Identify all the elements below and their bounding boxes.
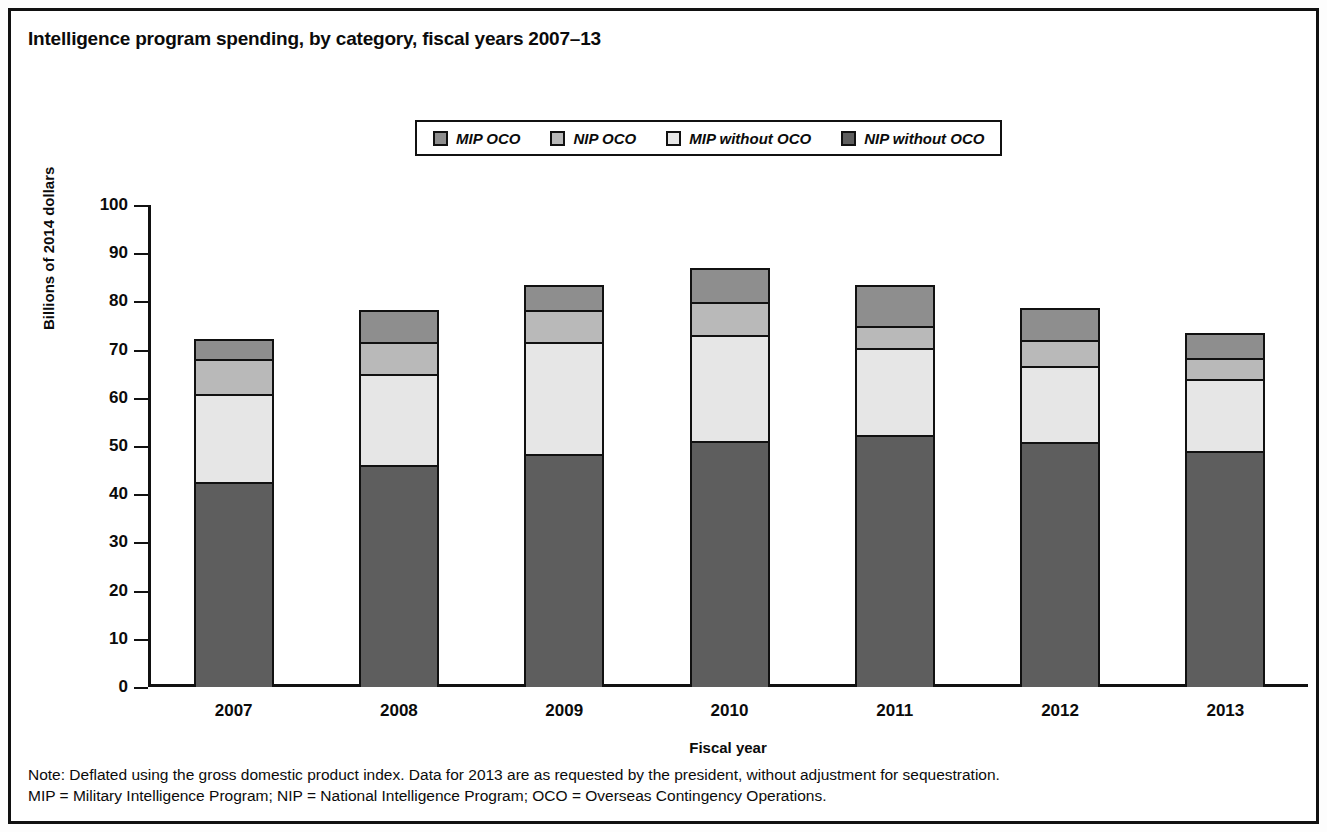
bar-segment [690,302,770,335]
bar-segment [1185,358,1265,378]
x-tick-label-2010: 2010 [670,701,790,721]
bar-segment [690,335,770,441]
bar-segment [855,326,935,348]
note-line-2: MIP = Military Intelligence Program; NIP… [28,785,1288,806]
legend-item-mip-oco[interactable]: MIP OCO [433,130,520,147]
x-tick-label-2011: 2011 [835,701,955,721]
bar-segment [855,285,935,326]
y-tick-mark [134,398,148,400]
bar-segment [1020,366,1100,442]
bar-2012[interactable] [1020,308,1100,687]
chart-legend: MIP OCO NIP OCO MIP without OCO NIP with… [415,120,1002,156]
y-tick-label: 40 [82,484,128,504]
bar-segment [690,268,770,302]
bar-segment [359,342,439,374]
legend-item-nip-without-oco[interactable]: NIP without OCO [841,130,984,147]
bar-segment [359,465,439,687]
legend-swatch-nip-without-oco [841,131,856,146]
x-tick-label-2013: 2013 [1165,701,1285,721]
bar-segment [359,310,439,342]
bar-segment [194,482,274,687]
note-line-1: Note: Deflated using the gross domestic … [28,764,1288,785]
bar-segment [194,339,274,359]
bar-segment [524,310,604,343]
bar-segment [524,285,604,310]
bar-segment [1020,442,1100,687]
legend-label-mip-without-oco: MIP without OCO [689,130,811,147]
y-tick-mark [134,494,148,496]
y-tick-mark [134,205,148,207]
y-tick-label: 80 [82,291,128,311]
figure-container: Intelligence program spending, by catego… [0,0,1327,832]
bar-segment [1185,451,1265,687]
legend-label-nip-oco: NIP OCO [573,130,636,147]
legend-item-mip-without-oco[interactable]: MIP without OCO [666,130,811,147]
y-tick-label: 50 [82,436,128,456]
bar-2009[interactable] [524,285,604,687]
bar-segment [359,374,439,466]
y-tick-label: 60 [82,388,128,408]
bar-segment [1020,340,1100,367]
bar-segment [1020,308,1100,340]
bar-segment [855,435,935,687]
legend-swatch-mip-oco [433,131,448,146]
y-tick-mark [134,687,148,689]
bar-2008[interactable] [359,310,439,687]
y-tick-mark [134,253,148,255]
figure-notes: Note: Deflated using the gross domestic … [28,764,1288,806]
bar-segment [690,441,770,687]
bar-2011[interactable] [855,285,935,687]
x-axis-title: Fiscal year [148,739,1308,756]
y-axis-title: Billions of 2014 dollars [40,167,57,330]
bar-segment [194,359,274,394]
bar-segment [1185,333,1265,358]
legend-item-nip-oco[interactable]: NIP OCO [550,130,636,147]
y-tick-label: 70 [82,340,128,360]
y-tick-label: 20 [82,581,128,601]
y-tick-label: 90 [82,243,128,263]
y-tick-label: 100 [82,195,128,215]
x-tick-label-2009: 2009 [504,701,624,721]
bar-2007[interactable] [194,339,274,687]
plot-area: 0102030405060708090100 20072008200920102… [148,205,1308,687]
bar-segment [524,454,604,687]
y-tick-mark [134,350,148,352]
page-title: Intelligence program spending, by catego… [28,28,601,50]
y-tick-mark [134,542,148,544]
x-tick-label-2007: 2007 [174,701,294,721]
bar-segment [855,348,935,435]
legend-swatch-nip-oco [550,131,565,146]
bar-segment [194,394,274,482]
y-tick-mark [134,446,148,448]
y-tick-label: 30 [82,532,128,552]
y-tick-mark [134,301,148,303]
y-tick-label: 0 [82,677,128,697]
x-tick-label-2012: 2012 [1000,701,1120,721]
x-tick-label-2008: 2008 [339,701,459,721]
legend-label-nip-without-oco: NIP without OCO [864,130,984,147]
bar-segment [1185,379,1265,451]
y-tick-label: 10 [82,629,128,649]
y-tick-mark [134,639,148,641]
bar-group [151,205,1308,687]
bar-2013[interactable] [1185,333,1265,687]
y-tick-mark [134,591,148,593]
bar-2010[interactable] [690,268,770,687]
legend-label-mip-oco: MIP OCO [456,130,520,147]
bar-segment [524,342,604,454]
legend-swatch-mip-without-oco [666,131,681,146]
